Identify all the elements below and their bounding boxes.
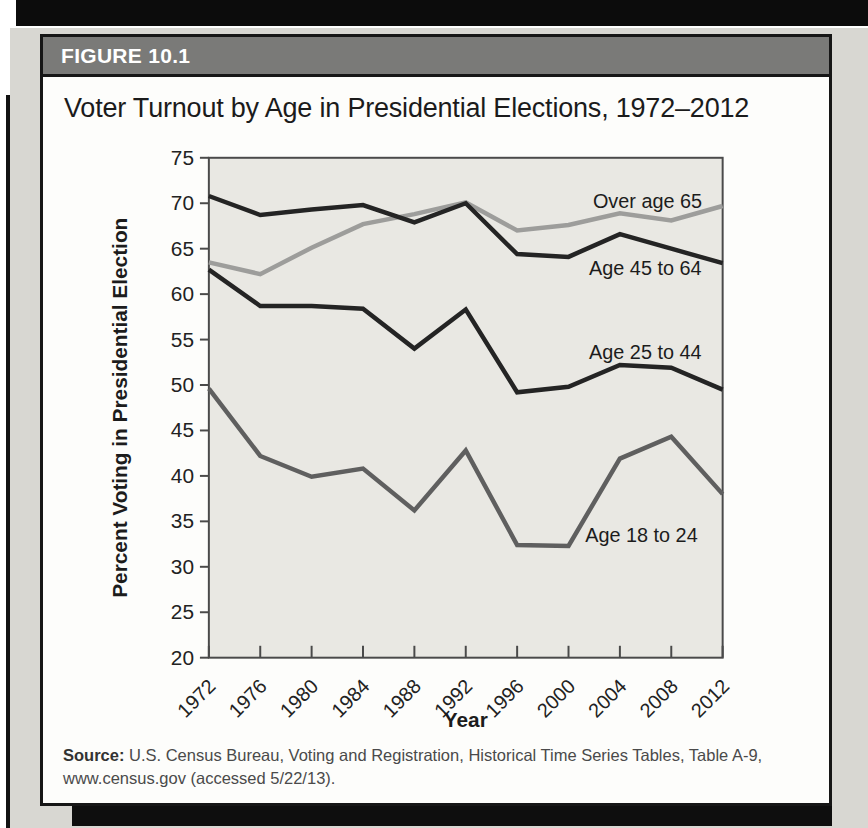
x-tick-label: 2012 [687,675,734,722]
plot-area [209,158,723,658]
y-tick-label: 30 [171,555,194,578]
x-tick-label: 1996 [481,675,528,722]
series-label: Age 45 to 64 [589,257,701,279]
series-label: Age 18 to 24 [585,524,697,546]
y-tick-label: 50 [171,373,194,396]
source-prefix: Source: [63,746,124,764]
y-tick-label: 40 [171,464,194,487]
x-tick-label: 1988 [378,675,425,722]
y-tick-label: 70 [171,191,194,214]
x-axis-title: Year [444,708,488,731]
y-axis-title: Percent Voting in Presidential Election [108,218,131,598]
figure-number-label: FIGURE 10.1 [61,44,190,68]
figure-title: Voter Turnout by Age in Presidential Ele… [43,77,829,132]
figure-box: FIGURE 10.1 Voter Turnout by Age in Pres… [40,34,832,806]
y-tick-label: 20 [171,646,194,669]
x-tick-label: 1976 [224,675,271,722]
chart-container: 2025303540455055606570751972197619801984… [43,132,829,742]
x-tick-label: 2008 [635,675,682,722]
y-tick-label: 45 [171,418,194,441]
source-text: U.S. Census Bureau, Voting and Registrat… [63,746,762,787]
page-left-rule [6,95,10,828]
voter-turnout-line-chart: 2025303540455055606570751972197619801984… [43,132,829,742]
page-bottom-black-band [72,806,832,826]
y-tick-label: 55 [171,328,194,351]
x-tick-label: 1972 [173,675,220,722]
series-label: Over age 65 [593,190,702,212]
y-tick-label: 75 [171,146,194,169]
figure-source-note: Source: U.S. Census Bureau, Voting and R… [43,742,829,790]
x-tick-label: 2000 [533,675,580,722]
series-label: Age 25 to 44 [589,341,701,363]
y-tick-label: 60 [171,282,194,305]
x-tick-label: 2004 [584,675,631,722]
y-tick-label: 25 [171,600,194,623]
figure-header-bar: FIGURE 10.1 [43,37,829,77]
page-top-black-band [16,0,868,26]
y-tick-label: 65 [171,237,194,260]
x-tick-label: 1984 [327,675,374,722]
y-tick-label: 35 [171,509,194,532]
x-tick-label: 1980 [276,675,323,722]
